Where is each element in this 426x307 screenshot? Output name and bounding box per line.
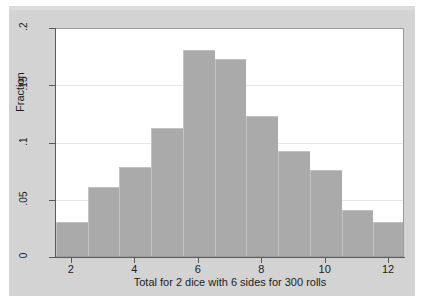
histogram-bar	[183, 50, 215, 256]
y-axis-title: Fraction	[14, 72, 26, 112]
y-tick-mark	[49, 143, 55, 144]
y-tick-mark	[49, 28, 55, 29]
x-axis-title: Total for 2 dice with 6 sides for 300 ro…	[55, 276, 405, 288]
x-axis-line	[55, 257, 405, 258]
histogram-bar	[278, 151, 310, 256]
x-tick-label: 10	[310, 263, 340, 275]
gridline-y-.2	[56, 28, 403, 29]
y-tick-label: .2	[18, 7, 29, 47]
histogram-figure: 0.05.1.15.2 24681012 Fraction Total for …	[0, 0, 426, 307]
histogram-bar	[119, 167, 151, 256]
y-tick-label: .1	[18, 121, 29, 161]
histogram-bar	[246, 116, 278, 256]
x-tick-label: 4	[119, 263, 149, 275]
x-tick-label: 6	[183, 263, 213, 275]
y-tick-label: 0	[18, 236, 29, 276]
histogram-bar	[342, 210, 374, 256]
histogram-bar	[310, 170, 342, 256]
y-tick-mark	[49, 85, 55, 86]
plot-area	[55, 28, 404, 257]
y-tick-mark	[49, 257, 55, 258]
y-tick-label: .05	[18, 178, 29, 218]
histogram-bar	[373, 222, 404, 256]
y-axis-line	[55, 28, 56, 258]
histogram-bar	[56, 222, 88, 256]
x-tick-label: 2	[56, 263, 86, 275]
y-tick-mark	[49, 200, 55, 201]
histogram-bar	[151, 128, 183, 256]
histogram-bar	[88, 187, 120, 256]
x-tick-label: 8	[246, 263, 276, 275]
x-tick-label: 12	[373, 263, 403, 275]
histogram-bar	[215, 59, 247, 256]
